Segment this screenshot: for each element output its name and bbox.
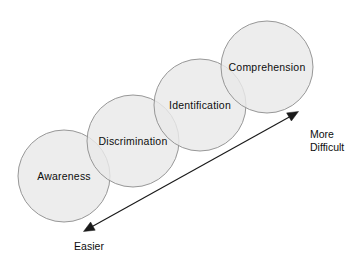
stage-label-identification: Identification: [169, 100, 231, 111]
stage-label-comprehension: Comprehension: [229, 62, 306, 73]
axis-label-more-difficult-line1: More: [310, 128, 344, 141]
stage-label-discrimination: Discrimination: [99, 136, 168, 147]
axis-label-more-difficult-line2: Difficult: [310, 141, 344, 154]
axis-label-easier: Easier: [74, 240, 104, 253]
difficulty-axis-arrowhead-difficult: [287, 112, 299, 122]
diagram-graphics: [0, 0, 356, 264]
difficulty-axis-arrowhead-easier: [84, 222, 96, 232]
diagram-canvas: Awareness Discrimination Identification …: [0, 0, 356, 264]
axis-label-more-difficult: More Difficult: [310, 128, 344, 155]
stage-label-awareness: Awareness: [37, 171, 91, 182]
